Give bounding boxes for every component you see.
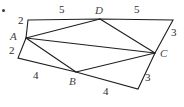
length-label-bottom: 4 <box>103 86 109 97</box>
vertex-label-c: C <box>160 48 167 59</box>
vertex-label-a: A <box>10 31 17 42</box>
length-label-right-upper: 3 <box>171 27 177 38</box>
length-label-top-left: 5 <box>59 4 65 15</box>
length-label-left-lower: 2 <box>9 45 15 56</box>
figure-canvas <box>0 0 184 107</box>
geometry-figure: 5 D 5 2 3 A 2 C 4 3 B 4 <box>0 0 184 107</box>
diagonal-b-c <box>76 53 155 72</box>
vertex-label-b: B <box>69 76 76 87</box>
vertex-label-d: D <box>95 5 103 16</box>
length-label-bottom-left: 4 <box>33 70 39 81</box>
diagonal-a-d <box>26 19 100 38</box>
length-label-right-lower: 3 <box>145 72 151 83</box>
length-label-left-upper: 2 <box>18 15 24 26</box>
length-label-top-right: 5 <box>134 4 140 15</box>
